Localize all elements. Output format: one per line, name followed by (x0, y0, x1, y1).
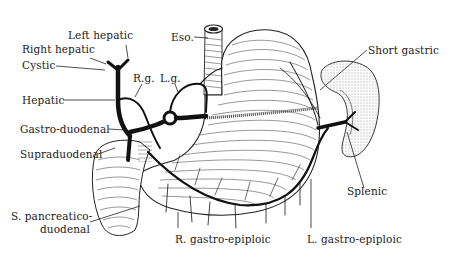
label-left-hepatic: Left hepatic (68, 30, 133, 41)
esophagus (204, 25, 223, 95)
label-r-gastro-epiploic: R. gastro-epiploic (175, 234, 271, 245)
label-rg: R.g. (133, 73, 155, 84)
label-gastro-duodenal: Gastro-duodenal (20, 124, 110, 135)
leader-right-hepatic (90, 58, 106, 64)
hepatic-artery (118, 67, 130, 136)
label-s-pancreatico-line1: S. pancreatico- (11, 211, 92, 222)
leader-cystic (56, 66, 105, 70)
label-hepatic: Hepatic (22, 95, 65, 106)
label-splenic: Splenic (347, 186, 387, 197)
label-eso: Eso. (171, 32, 194, 43)
label-right-hepatic: Right hepatic (22, 44, 95, 55)
label-supraduodenal: Supraduodenal (20, 149, 102, 160)
label-lg: L.g. (160, 73, 181, 84)
label-l-gastro-epiploic: L. gastro-epiploic (307, 234, 402, 245)
label-cystic: Cystic (22, 60, 55, 71)
leader-rg (135, 84, 142, 97)
leader-left-hepatic (126, 45, 128, 58)
label-short-gastric: Short gastric (368, 45, 439, 56)
leader-lg (175, 84, 178, 92)
label-s-pancreatico-line2: duodenal (40, 224, 90, 235)
